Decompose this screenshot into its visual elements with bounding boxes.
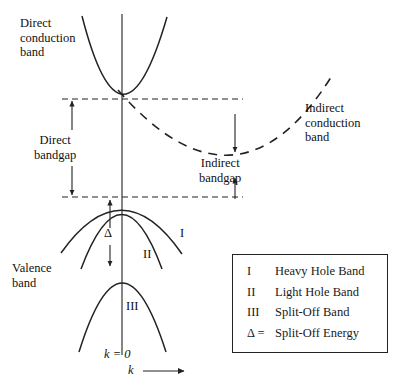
band-diagram-figure: Direct conduction band Direct bandgap In… (0, 0, 404, 390)
direct-conduction-band-curve (82, 16, 167, 94)
indirect-conduction-band-curve (118, 74, 333, 155)
legend-row: Δ = Split-Off Energy (233, 326, 387, 347)
legend-box: I Heavy Hole Band II Light Hole Band III… (232, 254, 388, 353)
heavy-hole-band-marker: I (180, 226, 184, 241)
k-axis-label: k (128, 363, 134, 378)
light-hole-band-marker: II (143, 247, 151, 262)
legend-row: III Split-Off Band (233, 305, 387, 326)
legend-text: Split-Off Energy (275, 326, 359, 341)
legend-row: I Heavy Hole Band (233, 264, 387, 285)
direct-bandgap-label: Direct bandgap (34, 133, 76, 162)
direct-conduction-band-label: Direct conduction band (20, 16, 76, 60)
valence-band-label: Valence band (12, 261, 52, 290)
indirect-conduction-band-label: Indirect conduction band (305, 101, 361, 145)
k-zero-label: k = 0 (104, 347, 130, 362)
indirect-bandgap-label: Indirect bandgap (199, 156, 241, 185)
legend-text: Light Hole Band (275, 285, 359, 300)
legend-text: Split-Off Band (275, 305, 349, 320)
legend-list: I Heavy Hole Band II Light Hole Band III… (233, 255, 387, 352)
legend-symbol: III (247, 305, 275, 320)
legend-symbol: I (247, 264, 275, 279)
split-off-band-marker: III (126, 299, 139, 314)
split-off-energy-symbol: Δ (104, 226, 112, 241)
legend-symbol: Δ = (247, 326, 275, 341)
legend-symbol: II (247, 285, 275, 300)
legend-row: II Light Hole Band (233, 285, 387, 306)
legend-text: Heavy Hole Band (275, 264, 365, 279)
